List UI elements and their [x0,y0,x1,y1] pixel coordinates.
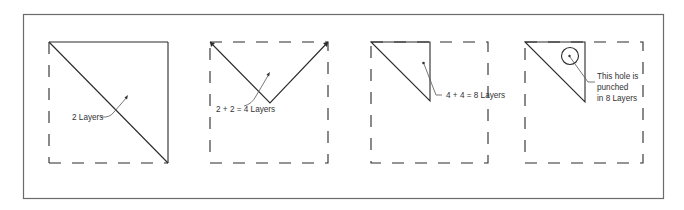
panel-1-diagonal-fold [49,42,168,163]
paper-folding-diagram: 2 Layers 2 + 2 = 4 Layers 4 + 4 = 8 Laye… [0,0,684,210]
arrow-head-icon [267,72,271,77]
panel-4-label-line-3: in 8 Layers [597,94,637,103]
panel-4-leader-line [570,57,595,82]
panel-4-pointer-dot [568,55,570,57]
panel-2-label: 2 + 2 = 4 Layers [216,105,275,114]
panel-3: 4 + 4 = 8 Layers [371,42,505,163]
panel-2: 2 + 2 = 4 Layers [210,42,328,163]
panel-1-leader-line [101,97,127,117]
panel-4: This hole is punched in 8 Layers [525,42,643,163]
panel-4-folded-triangle [525,42,585,102]
panel-3-label: 4 + 4 = 8 Layers [446,91,505,100]
panel-1: 2 Layers [49,42,168,163]
panel-4-label-line-2: punched [597,83,629,92]
panel-3-leader-line [424,64,442,95]
panel-3-folded-triangle [371,42,430,101]
panel-4-label-line-1: This hole is [597,72,638,81]
panel-2-folded-shape [210,42,328,103]
panel-1-label: 2 Layers [72,113,103,122]
panel-3-pointer-dot [422,62,425,65]
